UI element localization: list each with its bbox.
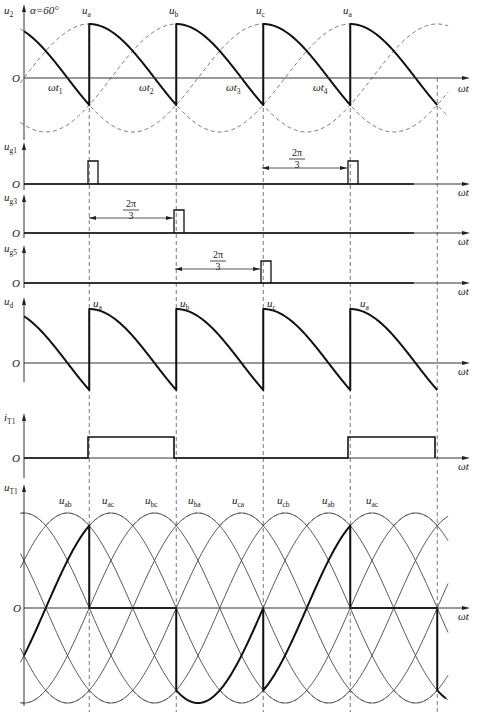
ug1-origin-label: O — [12, 178, 20, 190]
u2-label: u2 — [4, 4, 14, 19]
ug5-label: ug5 — [4, 242, 17, 257]
ug3-label: ug3 — [4, 191, 17, 206]
u2-omega-t-label: ωt — [458, 82, 470, 94]
ug5-fraction-num: 2π — [213, 249, 223, 260]
ug1-omega-t-label: ωt — [458, 186, 470, 198]
curve-label-ua: ua — [82, 4, 92, 19]
panel-u2: u2 α=60° O ωt ua ub uc ua ωt1 ωt2 ωt3 ωt… — [4, 4, 470, 140]
uT1-label-ucb: ucb — [277, 494, 290, 509]
ug1-y-arrow-icon — [22, 142, 26, 150]
panel-iT1: iT1 O ωt — [4, 411, 470, 478]
ug5-pulse — [261, 261, 271, 283]
ug3-y-arrow-icon — [22, 194, 26, 202]
ug3-omega-t-label: ωt — [458, 235, 470, 247]
iT1-omega-t-label: ωt — [458, 460, 470, 472]
uT1-label-uac: uac — [102, 494, 115, 509]
uT1-label-uab-2: uab — [322, 494, 335, 509]
iT1-origin-label: O — [12, 452, 20, 464]
ud-label: ud — [4, 295, 14, 310]
ug1-fraction-den: 3 — [295, 159, 300, 170]
curve-label-ua-2: ua — [343, 4, 353, 19]
uT1-thyristor-voltage-bold-curve — [24, 526, 446, 703]
ug5-span-annotation: 2π 3 — [175, 249, 260, 272]
ug5-origin-label: O — [12, 277, 20, 289]
ug5-y-arrow-icon — [22, 245, 26, 253]
time-mark-wt1: ωt1 — [48, 81, 63, 96]
curve-label-ub: ub — [169, 4, 179, 19]
panel-ug1: ug1 O ωt 2π 3 — [4, 140, 470, 198]
uT1-label-uab: uab — [59, 494, 72, 509]
ud-y-arrow-icon — [22, 297, 26, 305]
ud-curve-label-ua-2: ua — [360, 297, 370, 312]
ug3-pulse — [174, 210, 184, 233]
ug3-span-arrow-right-icon — [166, 216, 173, 220]
uT1-label: uT1 — [4, 481, 18, 496]
panel-uT1: uT1 O ωt uab uac ubc uba uca ucb uab uac — [4, 481, 470, 706]
time-mark-wt2: ωt2 — [139, 81, 154, 96]
ud-output-voltage-curve — [24, 309, 437, 390]
uT1-y-arrow-icon — [22, 484, 26, 492]
panel-ug3: ug3 O ωt 2π 3 — [4, 191, 470, 247]
iT1-y-arrow-icon — [22, 413, 26, 421]
ud-output-curve — [24, 309, 437, 390]
ug5-span-arrow-right-icon — [253, 267, 260, 271]
panel-ud: ud O ωt ua ub uc ua — [4, 295, 470, 390]
time-mark-wt3: ωt3 — [226, 81, 241, 96]
uT1-label-ubc: ubc — [145, 494, 158, 509]
curve-label-uc: uc — [256, 4, 266, 19]
ug3-span-arrow-left-icon — [89, 216, 96, 220]
ug1-label: ug1 — [4, 140, 17, 155]
ug1-span-arrow-right-icon — [340, 166, 347, 170]
ug5-omega-t-label: ωt — [458, 285, 470, 297]
ug1-pulse-2 — [348, 161, 358, 184]
ud-origin-label: O — [12, 357, 20, 369]
u2-y-arrow-icon — [22, 4, 26, 12]
uT1-label-uca: uca — [232, 494, 245, 509]
ug3-fraction-num: 2π — [126, 198, 136, 209]
u2-x-arrow-icon — [462, 76, 470, 80]
ug1-fraction-num: 2π — [292, 147, 302, 158]
iT1-current-waveform — [24, 437, 435, 458]
uT1-label-uac-2: uac — [366, 494, 379, 509]
alpha-label: α=60° — [30, 4, 59, 16]
uT1-curve-labels: uab uac ubc uba uca ucb uab uac — [59, 494, 379, 509]
ug5-fraction-den: 3 — [216, 261, 221, 272]
waveform-diagram: u2 α=60° O ωt ua ub uc ua ωt1 ωt2 ωt3 ωt… — [0, 0, 477, 719]
time-mark-wt4: ωt4 — [313, 81, 328, 96]
ug1-span-annotation: 2π 3 — [262, 147, 347, 170]
panel-ug5: ug5 O ωt 2π 3 — [4, 242, 470, 297]
ug3-span-annotation: 2π 3 — [89, 198, 173, 221]
ug3-fraction-den: 3 — [129, 210, 134, 221]
uT1-label-uba: uba — [188, 494, 201, 509]
uT1-omega-t-label: ωt — [458, 610, 470, 622]
u2-origin-label: O — [12, 72, 20, 84]
uT1-origin-label: O — [13, 602, 21, 614]
iT1-label: iT1 — [4, 411, 16, 426]
ud-omega-t-label: ωt — [458, 365, 470, 377]
ug3-origin-label: O — [12, 227, 20, 239]
